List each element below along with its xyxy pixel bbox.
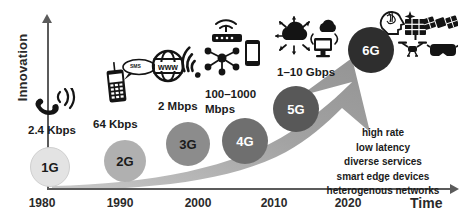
y-axis-label: Innovation — [15, 20, 30, 116]
icon-group-5g — [272, 14, 342, 62]
network-evolution-infographic: Innovation Time 1980 1990 2000 2010 2020… — [0, 0, 461, 223]
speed-label-4g: 100–1000 Mbps — [205, 87, 256, 117]
feature-item-heterogenous-networks: heterogenous networks — [318, 184, 448, 199]
speed-label-5g: 1–10 Gbps — [277, 66, 335, 79]
feature-item-high-rate: high rate — [318, 126, 448, 141]
icon-group-4g — [200, 18, 266, 84]
speed-label-2g: 64 Kbps — [93, 118, 138, 131]
generation-bubble-3g[interactable]: 3G — [166, 122, 210, 166]
speed-label-4g-line1: 100–1000 — [205, 87, 256, 102]
generation-label-6g: 6G — [362, 43, 379, 58]
x-tick-2000: 2000 — [168, 196, 228, 210]
x-axis-arrowhead — [450, 184, 459, 194]
feature-list: high rate low latency diverse services s… — [318, 126, 448, 199]
generation-bubble-1g[interactable]: 1G — [30, 147, 70, 187]
generation-label-4g: 4G — [236, 134, 253, 149]
feature-item-diverse-services: diverse services — [318, 155, 448, 170]
feature-item-low-latency: low latency — [318, 141, 448, 156]
speed-label-3g: 2 Mbps — [158, 100, 198, 113]
x-tick-1990: 1990 — [90, 196, 150, 210]
generation-label-5g: 5G — [287, 102, 304, 117]
icon-group-1g — [34, 88, 80, 120]
x-tick-1980: 1980 — [12, 196, 72, 210]
generation-label-3g: 3G — [179, 137, 196, 152]
generation-label-2g: 2G — [116, 154, 133, 169]
speed-label-4g-line2: Mbps — [205, 102, 256, 117]
svg-text:www: www — [157, 62, 178, 72]
sms-label: SMS — [130, 63, 141, 69]
generation-bubble-5g[interactable]: 5G — [273, 86, 319, 132]
generation-bubble-4g[interactable]: 4G — [222, 118, 268, 164]
generation-label-1g: 1G — [41, 160, 58, 175]
x-tick-2010: 2010 — [244, 196, 304, 210]
speed-label-1g: 2.4 Kbps — [28, 124, 76, 137]
feature-list-ellipsis: ... — [318, 172, 448, 183]
generation-bubble-2g[interactable]: 2G — [104, 140, 146, 182]
y-axis-arrowhead — [42, 14, 52, 23]
generation-bubble-6g[interactable]: 6G — [348, 27, 394, 73]
